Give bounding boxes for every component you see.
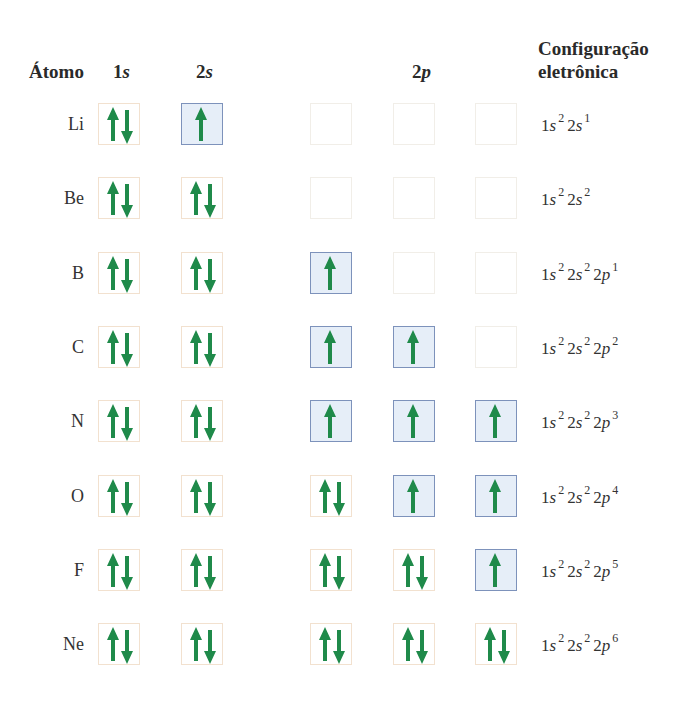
config-shell: 2	[567, 488, 576, 507]
spin-down-arrow-icon	[333, 482, 345, 516]
atom-label: Ne	[34, 634, 84, 655]
spin-up-arrow-icon	[319, 479, 331, 513]
config-electron-count: 2	[558, 111, 564, 125]
spin-up-arrow-icon	[190, 181, 202, 215]
spin-up-arrow-icon	[407, 330, 419, 364]
electron-configuration: 1s22s22p6	[541, 633, 621, 656]
config-electron-count: 2	[558, 185, 564, 199]
orbital-box-full	[98, 177, 140, 219]
orbital-box-full	[181, 549, 223, 591]
header-config-line2: eletrônica	[538, 61, 618, 83]
orbital-box-full	[393, 623, 435, 665]
config-shell: 1	[541, 116, 550, 135]
atom-label: B	[34, 263, 84, 284]
orbital-box-half	[393, 400, 435, 442]
orbital-box-full	[98, 252, 140, 294]
spin-up-arrow-icon	[107, 627, 119, 661]
config-subshell: s	[550, 562, 557, 581]
spin-down-arrow-icon	[416, 630, 428, 664]
config-subshell: s	[576, 116, 583, 135]
config-shell: 2	[567, 116, 576, 135]
orbital-box-full	[310, 623, 352, 665]
orbital-box-half	[310, 326, 352, 368]
spin-up-arrow-icon	[107, 553, 119, 587]
header-config-line1: Configuração	[538, 38, 649, 60]
config-subshell: s	[576, 636, 583, 655]
config-electron-count: 2	[584, 408, 590, 422]
spin-up-arrow-icon	[190, 330, 202, 364]
header-1s-l: s	[123, 61, 130, 82]
config-subshell: p	[602, 339, 611, 358]
orbital-box-full	[98, 103, 140, 145]
spin-up-arrow-icon	[324, 404, 336, 438]
electron-configuration: 1s22s22p2	[541, 336, 621, 359]
config-shell: 1	[541, 562, 550, 581]
orbital-box-half	[310, 252, 352, 294]
orbital-box-full	[310, 475, 352, 517]
orbital-box-half	[393, 326, 435, 368]
config-subshell: s	[550, 636, 557, 655]
spin-up-arrow-icon	[107, 256, 119, 290]
config-shell: 1	[541, 190, 550, 209]
header-atom: Átomo	[29, 61, 84, 83]
spin-down-arrow-icon	[121, 407, 133, 441]
spin-up-arrow-icon	[324, 330, 336, 364]
atom-label: F	[34, 560, 84, 581]
config-shell: 1	[541, 265, 550, 284]
config-subshell: p	[602, 265, 611, 284]
config-subshell: s	[550, 190, 557, 209]
spin-down-arrow-icon	[121, 556, 133, 590]
orbital-box-empty	[310, 103, 352, 145]
atom-label: C	[34, 337, 84, 358]
orbital-box-full	[98, 326, 140, 368]
config-electron-count: 2	[584, 334, 590, 348]
orbital-box-full	[181, 326, 223, 368]
config-electron-count: 1	[584, 111, 590, 125]
orbital-box-full	[98, 475, 140, 517]
orbital-box-full	[181, 177, 223, 219]
header-2s-n: 2	[196, 61, 206, 82]
spin-up-arrow-icon	[107, 404, 119, 438]
electron-configuration: 1s22s22p4	[541, 485, 621, 508]
orbital-box-half	[181, 103, 223, 145]
spin-up-arrow-icon	[489, 479, 501, 513]
orbital-box-empty	[393, 103, 435, 145]
spin-down-arrow-icon	[204, 556, 216, 590]
orbital-box-empty	[475, 177, 517, 219]
config-electron-count: 2	[558, 557, 564, 571]
orbital-box-empty	[310, 177, 352, 219]
spin-up-arrow-icon	[319, 553, 331, 587]
spin-up-arrow-icon	[407, 479, 419, 513]
config-shell: 2	[567, 636, 576, 655]
spin-up-arrow-icon	[190, 256, 202, 290]
orbital-box-half	[475, 400, 517, 442]
config-subshell: s	[576, 190, 583, 209]
config-electron-count: 6	[612, 631, 618, 645]
atom-label: Be	[34, 188, 84, 209]
electron-configuration: 1s22s2	[541, 187, 593, 210]
header-2s-l: s	[206, 61, 213, 82]
atom-label: N	[34, 411, 84, 432]
orbital-box-half	[475, 475, 517, 517]
spin-down-arrow-icon	[498, 630, 510, 664]
spin-up-arrow-icon	[489, 404, 501, 438]
config-electron-count: 2	[558, 408, 564, 422]
config-shell: 2	[593, 562, 602, 581]
spin-up-arrow-icon	[402, 553, 414, 587]
config-electron-count: 2	[558, 631, 564, 645]
orbital-box-half	[393, 475, 435, 517]
config-electron-count: 2	[558, 483, 564, 497]
config-electron-count: 4	[612, 483, 618, 497]
electron-configuration: 1s22s22p5	[541, 559, 621, 582]
spin-down-arrow-icon	[121, 630, 133, 664]
atom-label: Li	[34, 114, 84, 135]
header-2p: 2p	[412, 61, 431, 83]
electron-configuration: 1s22s1	[541, 113, 593, 136]
spin-up-arrow-icon	[484, 627, 496, 661]
orbital-box-full	[181, 252, 223, 294]
config-subshell: p	[602, 562, 611, 581]
config-electron-count: 2	[584, 260, 590, 274]
config-shell: 2	[593, 636, 602, 655]
config-subshell: p	[602, 488, 611, 507]
electron-configuration: 1s22s22p1	[541, 262, 621, 285]
